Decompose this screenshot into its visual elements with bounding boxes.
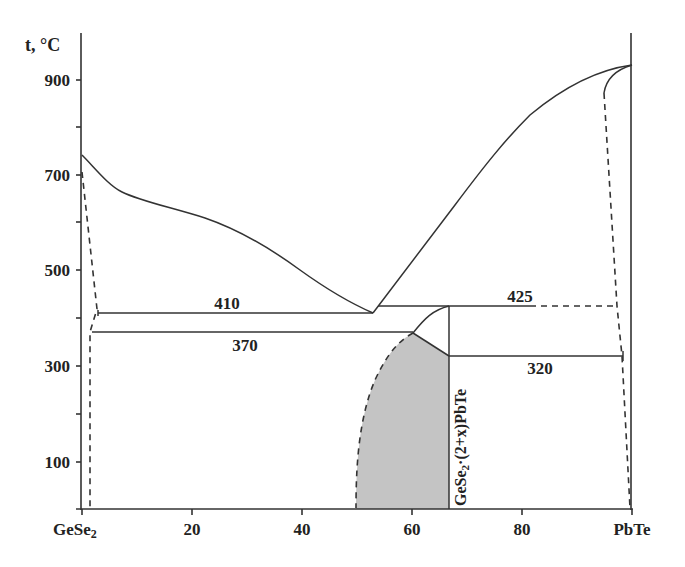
compound-label: GeSe2·(2+x)PbTe [452, 389, 471, 506]
homogeneity-region [356, 333, 449, 509]
x-ticks [82, 509, 632, 515]
y-tick-label-900: 900 [45, 71, 71, 90]
x-tick-label-60: 60 [404, 520, 421, 539]
x-tick-label-80: 80 [514, 520, 531, 539]
y-tick-label-300: 300 [45, 357, 71, 376]
phase-diagram-svg: t, °C 900 700 500 300 100 GeSe2 20 40 60… [0, 0, 685, 567]
x-tick-label-40: 40 [294, 520, 311, 539]
y-tick-label-700: 700 [45, 166, 71, 185]
label-410: 410 [214, 294, 240, 313]
phase-boundary-upper [413, 306, 449, 333]
y-tick-label-500: 500 [45, 261, 71, 280]
solvus-left-dashed [82, 172, 97, 508]
x-tick-label-20: 20 [184, 520, 201, 539]
label-425: 425 [507, 287, 533, 306]
liquidus-right [373, 65, 632, 313]
phase-diagram-chart: t, °C 900 700 500 300 100 GeSe2 20 40 60… [0, 0, 685, 567]
y-axis-label: t, °C [25, 35, 60, 55]
solvus-right-dashed [604, 93, 630, 508]
axes [76, 33, 633, 515]
label-370: 370 [232, 336, 258, 355]
x-tick-label-pbte: PbTe [613, 520, 651, 539]
solidus-right-solid [604, 65, 632, 93]
label-320: 320 [527, 359, 553, 378]
x-tick-label-gese2: GeSe2 [53, 520, 97, 541]
liquidus-left [82, 155, 373, 313]
y-tick-label-100: 100 [45, 453, 71, 472]
